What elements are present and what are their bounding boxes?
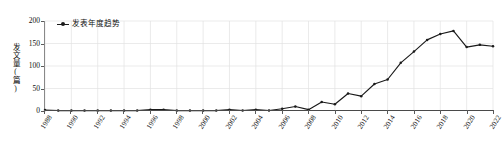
chart-legend: 发表年度趋势	[57, 18, 120, 30]
x-tick-label: 2004	[251, 114, 265, 130]
y-tick-mark	[41, 44, 45, 45]
x-tick-label: 2018	[435, 114, 449, 130]
x-tick-label: 1998	[171, 114, 185, 130]
x-tick-mark	[335, 110, 336, 114]
x-tick-mark	[414, 110, 415, 114]
plot-area	[44, 21, 493, 111]
y-tick-mark	[41, 66, 45, 67]
y-tick-label: 50	[18, 85, 40, 93]
x-tick-label: 1990	[66, 114, 80, 130]
y-tick-label: 100	[18, 62, 40, 69]
y-tick-label: 200	[18, 17, 40, 25]
x-tick-label: 2008	[303, 114, 317, 130]
legend-label: 发表年度趋势	[72, 20, 120, 28]
x-tick-mark	[97, 110, 98, 114]
x-tick-label: 2012	[356, 114, 370, 130]
x-tick-mark	[282, 110, 283, 114]
x-tick-label: 2022	[488, 114, 502, 130]
x-tick-label: 2014	[383, 114, 397, 130]
x-tick-mark	[361, 110, 362, 114]
x-tick-label: 2010	[330, 114, 344, 130]
x-tick-mark	[467, 110, 468, 114]
x-tick-label: 1994	[119, 114, 133, 130]
x-tick-label: 1992	[92, 114, 106, 130]
y-tick-mark	[41, 111, 45, 112]
y-tick-mark	[41, 89, 45, 90]
x-tick-label: 1988	[39, 114, 53, 130]
y-tick-label: 150	[18, 40, 40, 48]
x-tick-label: 2002	[224, 114, 238, 130]
x-tick-label: 1996	[145, 114, 159, 130]
x-tick-label: 2016	[409, 114, 423, 130]
line-circle-marker-icon	[57, 20, 69, 29]
series-line-publication-trend	[45, 21, 493, 111]
y-tick-mark	[41, 21, 45, 22]
x-axis-tick-labels: 1988199019921994199619982000200220042006…	[44, 114, 493, 149]
x-tick-mark	[150, 110, 151, 114]
y-tick-label: 0	[18, 107, 40, 115]
x-tick-mark	[229, 110, 230, 114]
y-axis-tick-labels: 050100150200	[14, 0, 40, 149]
x-tick-label: 2020	[462, 114, 476, 130]
x-tick-label: 2006	[277, 114, 291, 130]
x-tick-label: 2000	[198, 114, 212, 130]
